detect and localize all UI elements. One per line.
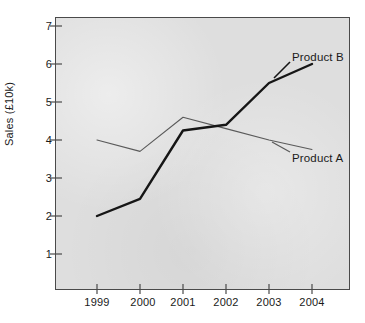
y-axis-ticks [50,26,62,254]
line-chart-figure: 7 6 5 4 3 2 1 1999 2000 2001 2002 2003 2… [0,0,365,323]
series-label-product-b: Product B [292,51,344,63]
x-axis-ticks [97,284,312,294]
series-label-product-a: Product A [292,152,343,164]
series-line-product-b [97,64,312,216]
